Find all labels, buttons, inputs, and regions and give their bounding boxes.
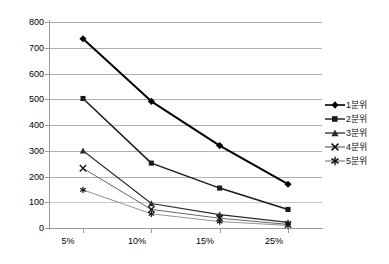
legend-label: 1분위 — [345, 99, 367, 111]
triangle-marker-icon — [325, 127, 345, 139]
legend-item-2[interactable]: 2분위 — [325, 112, 389, 125]
diamond-marker-icon — [325, 99, 345, 111]
line-chart: 800 700 600 500 400 300 200 100 0 5% 10%… — [0, 0, 389, 264]
legend-label: 2분위 — [345, 113, 367, 125]
x-marker-icon — [325, 141, 345, 153]
legend-item-5[interactable]: 5분위 — [325, 154, 389, 167]
legend-label: 4분위 — [345, 141, 367, 153]
legend-item-4[interactable]: 4분위 — [325, 140, 389, 153]
star-marker-icon — [325, 155, 345, 167]
series-4 — [80, 165, 291, 228]
legend-item-3[interactable]: 3분위 — [325, 126, 389, 139]
chart-legend: 1분위 2분위 3분위 — [325, 98, 389, 168]
square-marker-icon — [325, 113, 345, 125]
series-1 — [79, 35, 291, 188]
series-2 — [80, 96, 290, 212]
legend-item-1[interactable]: 1분위 — [325, 98, 389, 111]
legend-label: 3분위 — [345, 127, 367, 139]
legend-label: 5분위 — [345, 155, 367, 167]
series-5 — [80, 187, 291, 229]
